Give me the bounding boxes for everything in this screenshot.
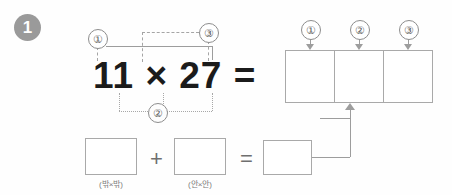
result-arrow-vertical-right — [350, 118, 351, 157]
grid-box-2[interactable] — [334, 50, 384, 103]
plus-operator: + — [150, 148, 163, 170]
grid-box-3[interactable] — [383, 50, 433, 103]
equals-operator: = — [240, 148, 253, 170]
marker-two: ② — [148, 103, 168, 123]
step-number-badge: 1 — [14, 14, 41, 41]
grid-marker-two: ② — [350, 20, 370, 40]
connector-three-horizontal — [142, 32, 199, 33]
result-arrow-riser — [350, 110, 351, 118]
grid-arrow-head-3 — [404, 44, 412, 50]
grid-arrow-head-1 — [306, 44, 314, 50]
caption-inner: (안×안) — [174, 178, 226, 189]
marker-three: ③ — [199, 23, 219, 43]
partial-product-outer-box[interactable] — [85, 138, 137, 175]
connector-one-horizontal — [106, 46, 212, 47]
partial-product-inner-box[interactable] — [174, 138, 226, 175]
result-arrow-head — [345, 103, 355, 110]
grid-marker-three: ③ — [399, 20, 419, 40]
result-box[interactable] — [263, 140, 312, 175]
result-arrow-horizontal-lower — [312, 157, 350, 158]
grid-box-1[interactable] — [285, 50, 335, 103]
worksheet-canvas: 1 ① ③ ② 11 × 27 = ① ② ③ + = (밖×밖) (안×안) — [0, 0, 452, 195]
marker-one: ① — [88, 29, 108, 49]
grid-arrow-head-2 — [355, 44, 363, 50]
caption-outer: (밖×밖) — [85, 178, 137, 189]
grid-marker-one: ① — [301, 20, 321, 40]
main-equation: 11 × 27 = — [93, 55, 256, 97]
result-arrow-horizontal-upper — [320, 118, 350, 119]
